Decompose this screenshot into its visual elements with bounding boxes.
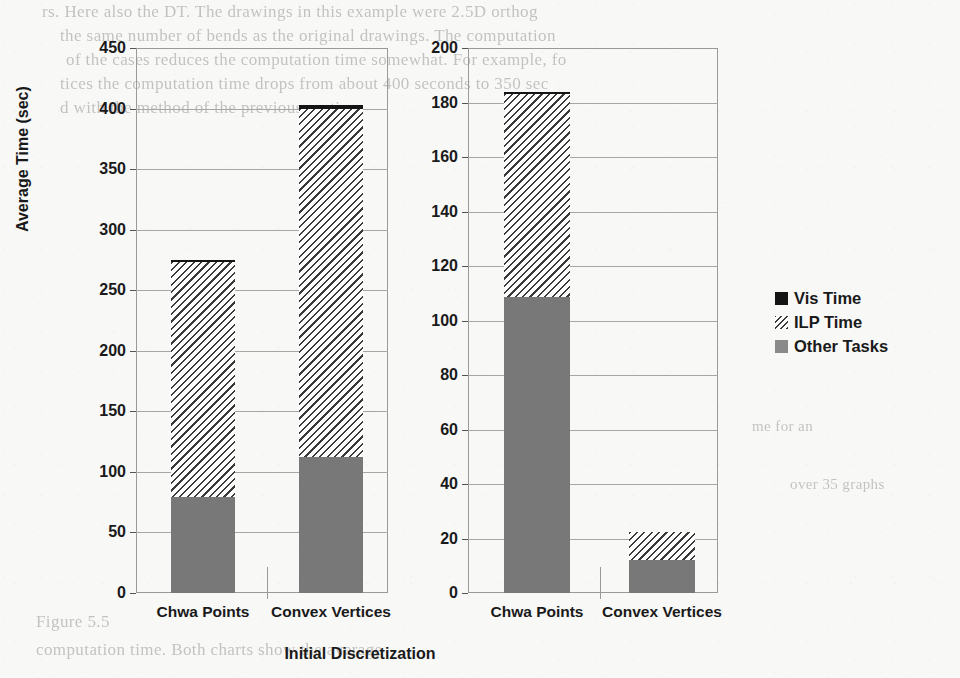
stacked-bar-figure: Average Time (sec) Initial Discretizatio…	[0, 0, 960, 678]
y-axis-tick	[130, 109, 136, 110]
legend-label: ILP Time	[794, 313, 862, 332]
y-axis-tick-label: 400	[74, 101, 126, 117]
y-axis-tick	[130, 169, 136, 170]
y-axis-tick	[130, 411, 136, 412]
y-axis-tick-label: 100	[74, 464, 126, 480]
y-axis-tick	[462, 212, 468, 213]
category-divider	[267, 567, 268, 599]
y-axis-tick	[462, 103, 468, 104]
y-axis-tick-label: 200	[406, 40, 458, 56]
y-axis-tick-label: 40	[406, 476, 458, 492]
y-axis-tick	[130, 351, 136, 352]
y-axis-tick	[462, 484, 468, 485]
y-axis-tick-label: 300	[74, 222, 126, 238]
y-axis-tick-label: 200	[74, 343, 126, 359]
bar-segment-other-tasks	[171, 497, 235, 593]
y-axis-tick	[130, 48, 136, 49]
y-axis-tick-label: 0	[74, 585, 126, 601]
vis-time-swatch-icon	[775, 292, 788, 305]
bar-segment-ilp-time	[504, 94, 570, 297]
bar-segment-other-tasks	[629, 560, 695, 593]
y-axis-tick-label: 350	[74, 161, 126, 177]
y-axis-tick	[130, 290, 136, 291]
legend-item-vis-time: Vis Time	[775, 289, 888, 308]
y-axis-tick-label: 50	[74, 524, 126, 540]
y-axis-tick	[462, 593, 468, 594]
y-axis-tick-label: 180	[406, 95, 458, 111]
y-axis-title: Average Time (sec)	[14, 12, 32, 232]
y-axis-tick	[462, 430, 468, 431]
y-axis-tick	[462, 375, 468, 376]
y-axis-tick	[462, 48, 468, 49]
other-tasks-swatch-icon	[775, 340, 788, 353]
bar-segment-vis-time	[504, 92, 570, 95]
bar-segment-ilp-time	[171, 262, 235, 497]
legend: Vis Time ILP Time Other Tasks	[775, 289, 888, 356]
bar-segment-other-tasks	[299, 457, 363, 593]
y-axis-tick-label: 140	[406, 204, 458, 220]
x-axis-title: Initial Discretization	[0, 645, 720, 663]
y-axis-tick	[462, 321, 468, 322]
y-axis-tick-label: 20	[406, 531, 458, 547]
y-axis-tick-label: 160	[406, 149, 458, 165]
legend-item-other-tasks: Other Tasks	[775, 337, 888, 356]
bar-segment-vis-time	[171, 260, 235, 262]
y-axis-tick-label: 100	[406, 313, 458, 329]
bar-segment-other-tasks	[504, 297, 570, 593]
category-label: Convex Vertices	[241, 603, 421, 621]
bar-segment-ilp-time	[299, 109, 363, 458]
category-divider	[600, 567, 601, 599]
bar-segment-ilp-time	[629, 532, 695, 561]
y-axis-tick	[130, 230, 136, 231]
y-axis-tick	[462, 539, 468, 540]
legend-label: Other Tasks	[794, 337, 888, 356]
y-axis-tick-label: 120	[406, 258, 458, 274]
y-axis-tick-label: 450	[74, 40, 126, 56]
ilp-time-swatch-icon	[775, 316, 788, 329]
legend-item-ilp-time: ILP Time	[775, 313, 888, 332]
bar-segment-vis-time	[299, 105, 363, 109]
y-axis-tick-label: 150	[74, 403, 126, 419]
category-label: Convex Vertices	[572, 603, 752, 621]
legend-label: Vis Time	[794, 289, 861, 308]
y-axis-tick-label: 250	[74, 282, 126, 298]
y-axis-tick-label: 0	[406, 585, 458, 601]
y-axis-tick-label: 80	[406, 367, 458, 383]
y-axis-tick	[130, 472, 136, 473]
y-axis-tick	[462, 157, 468, 158]
y-axis-tick	[462, 266, 468, 267]
y-axis-tick	[130, 532, 136, 533]
y-axis-tick-label: 60	[406, 422, 458, 438]
y-axis-tick	[130, 593, 136, 594]
